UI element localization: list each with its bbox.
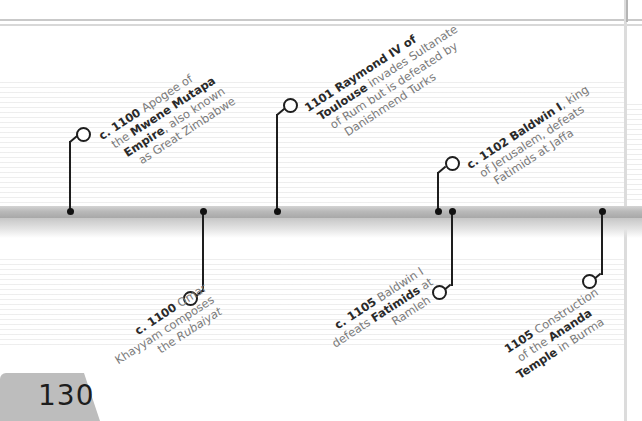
connector xyxy=(202,212,204,292)
event-ring-icon xyxy=(76,127,91,142)
timeline-dot xyxy=(200,208,207,215)
timeline-dot xyxy=(274,208,281,215)
connector xyxy=(69,141,71,211)
top-rule-upper xyxy=(0,19,642,21)
event-ring-icon xyxy=(445,156,460,171)
top-rule-lower xyxy=(0,24,642,26)
stripes-right xyxy=(627,100,642,200)
connector xyxy=(451,212,453,286)
page-gutter-top xyxy=(626,0,628,22)
connector xyxy=(276,114,278,211)
connector xyxy=(601,212,603,275)
timeline-bar xyxy=(0,206,642,218)
timeline-dot xyxy=(67,208,74,215)
timeline-dot xyxy=(435,208,442,215)
timeline-dot xyxy=(449,208,456,215)
timeline-dot xyxy=(599,208,606,215)
page-number: 130 xyxy=(38,379,94,412)
connector xyxy=(437,172,439,211)
event-ring-icon xyxy=(283,98,298,113)
timeline-bar-shadow xyxy=(0,218,642,238)
